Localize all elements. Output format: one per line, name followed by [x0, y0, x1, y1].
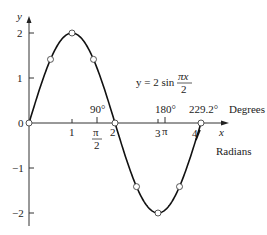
- y-tick-neg2: −2: [12, 207, 24, 219]
- y-tick-neg1: −1: [12, 162, 24, 174]
- x-tick-2: 2: [110, 126, 116, 138]
- x-tick-3: 3: [155, 127, 161, 139]
- data-point: [48, 56, 54, 62]
- degree-180-label: 180°: [155, 103, 176, 115]
- x-tick-pi-half-den: 2: [94, 139, 100, 151]
- x-tick-pi-half-num: π: [93, 126, 99, 138]
- y-axis-label: y: [16, 10, 22, 22]
- y-tick-1: 1: [17, 72, 23, 84]
- data-point: [91, 56, 97, 62]
- degree-90-label: 90°: [90, 103, 105, 115]
- degree-229-label: 229.2°: [189, 103, 218, 115]
- y-tick-2: 2: [17, 27, 23, 39]
- x-axis-arrow-icon: [221, 121, 229, 126]
- x-tick-pi: π: [162, 125, 168, 137]
- equation-denominator: 2: [181, 83, 187, 95]
- data-point: [134, 184, 140, 190]
- data-point: [177, 184, 183, 190]
- radians-label: Radians: [216, 145, 251, 157]
- data-point: [26, 120, 32, 126]
- equation-lhs: y = 2 sin: [136, 76, 175, 88]
- sine-chart: y 2 1 0 −1 −2 1 π 2 2 3 π 4 x Radians 90…: [0, 0, 267, 235]
- data-point: [155, 210, 161, 216]
- data-point: [198, 120, 204, 126]
- x-tick-1: 1: [69, 126, 75, 138]
- data-point: [69, 30, 75, 36]
- origin-label: 0: [18, 117, 24, 129]
- y-axis-arrow-icon: [27, 16, 32, 23]
- equation-numerator: πx: [178, 70, 189, 82]
- x-tick-4: 4: [192, 127, 198, 139]
- x-axis-label: x: [218, 126, 224, 138]
- degrees-label: Degrees: [229, 103, 265, 115]
